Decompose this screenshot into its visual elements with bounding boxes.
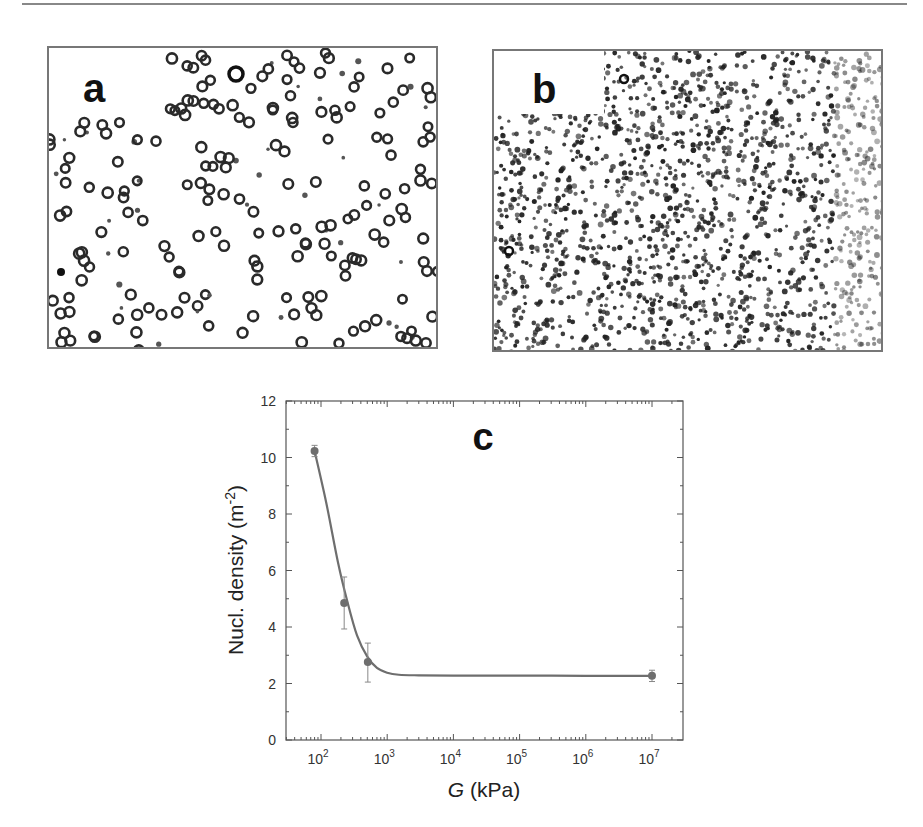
x-tick-label: 104 xyxy=(440,748,462,767)
x-tick-label: 106 xyxy=(572,748,594,767)
data-point xyxy=(648,672,656,680)
x-tick-label: 107 xyxy=(638,748,660,767)
x-axis-title: G (kPa) xyxy=(448,778,520,801)
fit-curve xyxy=(315,451,652,676)
nucleation-density-chart: 024681012 102103104105106107 c Nucl. den… xyxy=(0,0,923,827)
data-point xyxy=(364,658,372,666)
y-tick-label: 12 xyxy=(260,393,276,409)
y-tick-label: 10 xyxy=(260,450,276,466)
y-tick-label: 4 xyxy=(268,619,276,635)
x-tick-label: 105 xyxy=(506,748,528,767)
y-tick-label: 2 xyxy=(268,676,276,692)
x-tick-label: 102 xyxy=(307,748,329,767)
y-tick-label: 0 xyxy=(268,732,276,748)
panel-label-c: c xyxy=(472,416,493,458)
y-tick-label: 6 xyxy=(268,563,276,579)
data-point xyxy=(311,447,319,455)
data-point xyxy=(340,599,348,607)
y-axis-title: Nucl. density (m-2) xyxy=(222,485,247,655)
x-tick-label: 103 xyxy=(374,748,396,767)
data-series xyxy=(311,445,656,682)
y-tick-label: 8 xyxy=(268,506,276,522)
